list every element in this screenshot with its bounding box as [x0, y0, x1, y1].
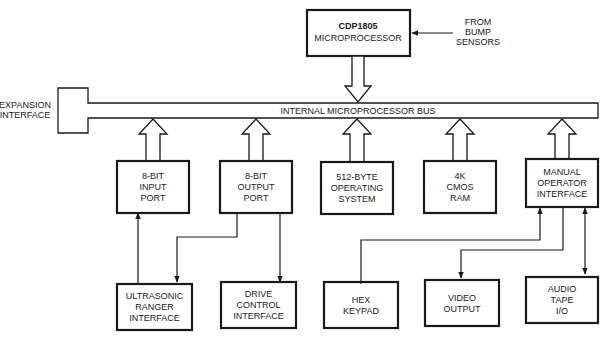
hex-keypad-block: HEXKEYPAD [324, 282, 398, 328]
operating-system-block-line: 512-BYTE [336, 172, 378, 182]
input-port-bus-arrow [139, 119, 167, 161]
audio-tape-block-line: TAPE [551, 295, 574, 305]
input-port-block: 8-BITINPUTPORT [117, 161, 189, 213]
audio-tape-block-line: AUDIO [548, 284, 577, 294]
video-output-block-line: OUTPUT [444, 304, 482, 314]
cpu-to-bus-arrow [345, 56, 371, 102]
operating-system-block-line: SYSTEM [338, 194, 375, 204]
svg-text:SENSORS: SENSORS [456, 37, 500, 47]
ultrasonic-ranger-block-line: ULTRASONIC [126, 291, 184, 301]
manual-operator-bus-arrow [548, 119, 576, 159]
manual-operator-block: MANUALOPERATORINTERFACE [526, 159, 598, 207]
audio-tape-block-line: I/O [556, 306, 568, 316]
operating-system-block: 512-BYTEOPERATINGSYSTEM [321, 162, 393, 214]
drive-control-block-line: DRIVE [245, 289, 273, 299]
input-port-block-line: INPUT [140, 182, 168, 192]
hex-keypad-block-line: HEX [352, 295, 371, 305]
microprocessor-title: CDP1805 [338, 21, 377, 31]
keypad-to-manual-arrow [361, 208, 540, 284]
video-output-block-line: VIDEO [448, 293, 476, 303]
ultrasonic-ranger-block: ULTRASONICRANGERINTERFACE [117, 284, 192, 330]
cmos-ram-block-line: CMOS [447, 182, 474, 192]
drive-control-block: DRIVECONTROLINTERFACE [221, 282, 296, 328]
output-port-block-line: 8-BIT [245, 171, 268, 181]
microprocessor-block: CDP1805 MICROPROCESSOR [307, 10, 410, 56]
bus-label: INTERNAL MICROPROCESSOR BUS [280, 106, 435, 116]
svg-text:INTERFACE: INTERFACE [0, 110, 50, 120]
output-to-ranger-arrow [177, 213, 237, 282]
cmos-ram-block-line: RAM [450, 193, 470, 203]
svg-text:EXPANSION: EXPANSION [0, 100, 51, 110]
manual-operator-block-line: MANUAL [543, 167, 581, 177]
cmos-ram-block: 4KCMOSRAM [424, 161, 496, 213]
drive-control-block-line: CONTROL [236, 300, 280, 310]
block-diagram: CDP1805 MICROPROCESSOR FROM BUMP SENSORS… [0, 0, 612, 340]
manual-operator-block-line: OPERATOR [537, 178, 587, 188]
manual-operator-block-line: INTERFACE [537, 189, 588, 199]
cmos-ram-block-line: 4K [454, 171, 465, 181]
expansion-label: EXPANSION INTERFACE [0, 100, 51, 120]
hex-keypad-block-line: KEYPAD [343, 306, 379, 316]
svg-text:FROM: FROM [465, 17, 492, 27]
cmos-ram-bus-arrow [446, 119, 474, 161]
operating-system-bus-arrow [343, 119, 371, 162]
operating-system-block-line: OPERATING [331, 183, 383, 193]
ultrasonic-ranger-block-line: INTERFACE [129, 313, 180, 323]
input-port-block-line: PORT [141, 193, 166, 203]
output-port-block-line: OUTPUT [238, 182, 276, 192]
output-port-block: 8-BITOUTPUTPORT [220, 161, 292, 213]
video-output-block: VIDEOOUTPUT [425, 280, 499, 326]
output-port-block-line: PORT [244, 193, 269, 203]
svg-text:BUMP: BUMP [465, 27, 491, 37]
manual-to-video-arrow [461, 207, 563, 278]
microprocessor-subtitle: MICROPROCESSOR [314, 33, 402, 43]
output-port-bus-arrow [242, 119, 270, 161]
audio-tape-block: AUDIOTAPEI/O [526, 277, 598, 323]
ultrasonic-ranger-block-line: RANGER [135, 302, 174, 312]
bump-sensors-label: FROM BUMP SENSORS [456, 17, 500, 47]
input-port-block-line: 8-BIT [142, 171, 165, 181]
drive-control-block-line: INTERFACE [233, 311, 284, 321]
